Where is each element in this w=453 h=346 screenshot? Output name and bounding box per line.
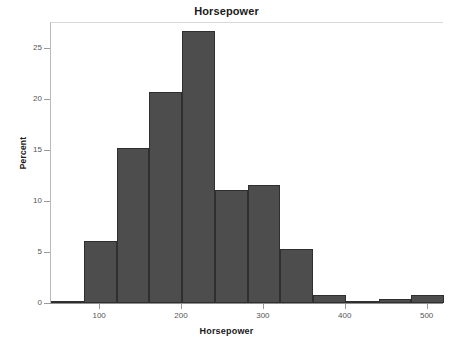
y-axis-tick-label: 15	[2, 146, 42, 154]
y-axis-tick-label: 10	[2, 197, 42, 205]
y-axis-tick	[44, 303, 50, 304]
histogram-bar	[411, 295, 444, 303]
y-axis-tick-label: 20	[2, 95, 42, 103]
x-axis-tick	[181, 304, 182, 309]
x-axis-tick	[427, 304, 428, 309]
x-axis-tick	[263, 304, 264, 309]
y-axis-tick	[44, 99, 50, 100]
histogram-bar	[117, 148, 150, 303]
y-axis-tick	[44, 150, 50, 151]
x-axis-tick-label: 300	[243, 311, 283, 320]
histogram-figure: Horsepower Percent 0510152025 1002003004…	[0, 0, 453, 346]
x-axis-tick-label: 200	[161, 311, 201, 320]
histogram-bar	[215, 190, 248, 303]
y-axis-tick	[44, 48, 50, 49]
chart-title: Horsepower	[0, 5, 453, 17]
histogram-bar	[149, 92, 182, 303]
x-axis-tick	[99, 304, 100, 309]
x-axis-tick-label: 400	[325, 311, 365, 320]
histogram-bar	[84, 241, 117, 303]
histogram-bar	[313, 295, 346, 303]
histogram-bar	[280, 249, 313, 303]
y-axis-tick-label: 0	[2, 299, 42, 307]
x-axis-title: Horsepower	[0, 326, 453, 336]
y-axis-tick-label: 5	[2, 248, 42, 256]
x-axis-tick-label: 500	[407, 311, 447, 320]
y-axis-tick	[44, 252, 50, 253]
x-axis-line	[50, 303, 443, 304]
plot-area	[50, 22, 443, 303]
y-axis-tick	[44, 201, 50, 202]
histogram-bar	[182, 31, 215, 303]
bars-layer	[51, 23, 443, 303]
x-axis-tick	[345, 304, 346, 309]
x-axis-tick-label: 100	[79, 311, 119, 320]
histogram-bar	[248, 185, 281, 303]
y-axis-tick-label: 25	[2, 44, 42, 52]
